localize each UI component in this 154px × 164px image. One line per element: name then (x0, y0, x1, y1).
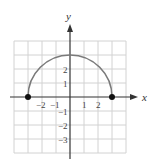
semicircle-graph: x y −2 −1 1 2 2 1 −1 −2 −3 (0, 0, 154, 164)
x-axis-label: x (141, 91, 147, 103)
endpoint-right (109, 94, 115, 100)
y-tick-label: 2 (63, 65, 68, 75)
y-tick-label: −3 (58, 135, 68, 145)
y-tick-label: 1 (63, 79, 68, 89)
x-tick-label: 1 (82, 100, 87, 110)
y-axis-arrow-icon (67, 24, 73, 32)
y-tick-label: −1 (58, 107, 68, 117)
y-tick-label: −2 (58, 121, 68, 131)
x-tick-label: 2 (96, 100, 101, 110)
endpoint-left (25, 94, 31, 100)
x-tick-label: −2 (36, 100, 46, 110)
y-axis-label: y (65, 10, 71, 22)
x-axis-arrow-icon (130, 94, 138, 100)
